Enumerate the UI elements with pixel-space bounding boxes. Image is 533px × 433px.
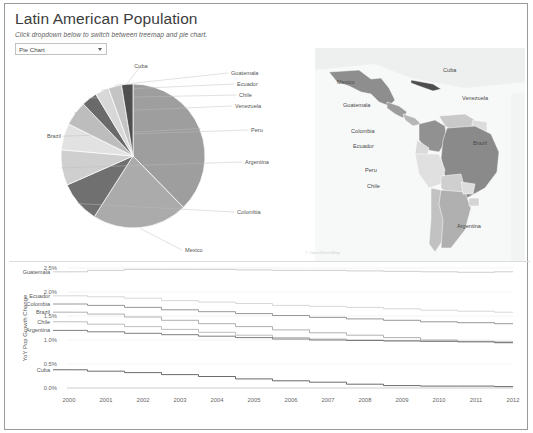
dashboard-container: Latin American Population Click dropdown…: [4, 3, 528, 430]
line-series-brazil[interactable]: [69, 312, 513, 343]
growth-line-chart[interactable]: 0.0%0.5%1.0%1.5%2.0%2.5%YoY Pop Growth C…: [13, 262, 525, 424]
x-tick-label: 2008: [359, 397, 372, 403]
series-label-chile: Chile: [37, 319, 50, 325]
map-label-peru: Peru: [365, 167, 377, 173]
series-label-guatemala: Guatemala: [23, 269, 51, 275]
map-label-venezuela: Venezuela: [462, 95, 489, 101]
pie-label-brazil: Brazil: [47, 133, 61, 139]
pie-label-mexico: Mexico: [185, 247, 203, 253]
pie-label-guatemala: Guatemala: [231, 70, 259, 76]
chart-type-dropdown-value: Pie Chart: [19, 45, 45, 55]
map-label-argentina: Argentina: [457, 223, 482, 229]
series-label-brazil: Brazil: [36, 309, 50, 315]
series-label-argentina: Argentina: [26, 327, 51, 333]
y-tick-label: 0.0%: [44, 385, 57, 391]
pie-label-peru: Peru: [251, 127, 263, 133]
map-label-cuba: Cuba: [443, 67, 457, 73]
pie-label-argentina: Argentina: [245, 159, 270, 165]
map-label-chile: Chile: [367, 183, 380, 189]
line-series-guatemala[interactable]: [69, 269, 513, 272]
x-tick-label: 2004: [211, 397, 225, 403]
map-region-uruguay[interactable]: [469, 198, 479, 206]
line-series-ecuador[interactable]: [69, 296, 513, 312]
line-chart-panel: 0.0%0.5%1.0%1.5%2.0%2.5%YoY Pop Growth C…: [13, 262, 525, 424]
x-tick-label: 2005: [248, 397, 261, 403]
map-label-mexico: Mexico: [337, 79, 355, 85]
pie-leader-line-mexico: [141, 229, 183, 250]
pie-label-venezuela: Venezuela: [235, 103, 262, 109]
x-tick-label: 2009: [396, 397, 409, 403]
series-label-colombia: Colombia: [26, 301, 51, 307]
chevron-down-icon[interactable]: [98, 48, 102, 51]
pie-chart-panel: BrazilMexicoColombiaArgentinaPeruVenezue…: [13, 56, 313, 261]
atlantic-backdrop: [511, 92, 525, 262]
map-label-colombia: Colombia: [351, 128, 376, 134]
y-tick-label: 1.0%: [44, 337, 57, 343]
x-tick-label: 2012: [507, 397, 520, 403]
map-label-guatemala: Guatemala: [343, 102, 371, 108]
pie-label-colombia: Colombia: [237, 209, 262, 215]
pie-label-ecuador: Ecuador: [237, 81, 258, 87]
x-tick-label: 2002: [137, 397, 150, 403]
map-attribution: © OpenStreetMap: [305, 250, 340, 255]
x-tick-label: 2011: [470, 397, 482, 403]
x-tick-label: 2006: [285, 397, 298, 403]
latin-america-map[interactable]: MexicoCubaGuatemalaVenezuelaColombiaEcua…: [315, 48, 525, 262]
series-label-ecuador: Ecuador: [29, 293, 50, 299]
pie-leader-line-guatemala: [115, 73, 228, 85]
page-subtitle: Click dropdown below to switch between t…: [15, 30, 515, 39]
x-tick-label: 2000: [63, 397, 76, 403]
pie-label-cuba: Cuba: [134, 63, 148, 69]
x-tick-label: 2010: [433, 397, 446, 403]
map-region-paraguay[interactable]: [461, 182, 475, 194]
x-tick-label: 2003: [174, 397, 187, 403]
series-label-cuba: Cuba: [37, 367, 51, 373]
map-panel[interactable]: MexicoCubaGuatemalaVenezuelaColombiaEcua…: [315, 48, 525, 262]
pie-chart[interactable]: BrazilMexicoColombiaArgentinaPeruVenezue…: [13, 56, 313, 261]
pie-label-chile: Chile: [239, 92, 252, 98]
page-title: Latin American Population: [15, 10, 515, 28]
chart-type-dropdown[interactable]: Pie Chart: [15, 43, 107, 55]
line-series-colombia[interactable]: [69, 304, 513, 324]
map-label-brazil: Brazil: [473, 140, 487, 146]
x-tick-label: 2001: [100, 397, 113, 403]
x-tick-label: 2007: [322, 397, 335, 403]
map-label-ecuador: Ecuador: [353, 143, 374, 149]
line-series-cuba[interactable]: [69, 370, 513, 387]
